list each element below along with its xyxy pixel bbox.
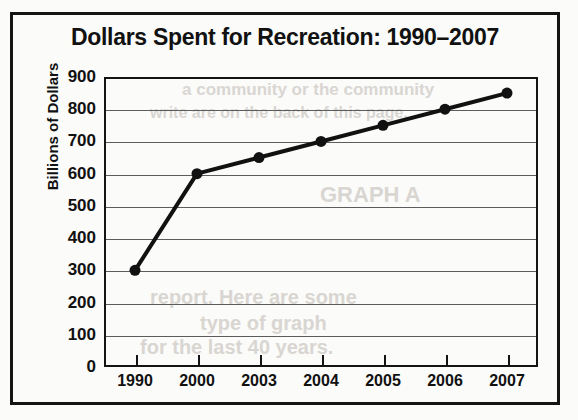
y-axis-tick-label: 600 — [50, 164, 96, 184]
x-axis-tick-label: 1990 — [100, 372, 170, 390]
data-point-marker — [440, 104, 451, 115]
y-axis-tick-label: 100 — [50, 325, 96, 345]
data-point-marker — [192, 168, 203, 179]
x-axis-tick-label: 2004 — [286, 372, 356, 390]
y-axis-tick-label: 0 — [50, 357, 96, 377]
y-axis-tick-label: 800 — [50, 99, 96, 119]
y-axis-tick-labels: 9008007006005004003002001000 — [50, 77, 96, 367]
chart-title: Dollars Spent for Recreation: 1990–2007 — [10, 24, 560, 51]
y-axis-tick-label: 400 — [50, 228, 96, 248]
x-axis-tick-label: 2003 — [224, 372, 294, 390]
x-axis-tick-label: 2006 — [410, 372, 480, 390]
y-axis-tick-label: 300 — [50, 260, 96, 280]
line-series-recreation-spending — [104, 77, 538, 367]
data-point-marker — [378, 120, 389, 131]
data-point-marker — [502, 88, 513, 99]
y-axis-tick-label: 500 — [50, 196, 96, 216]
x-axis-tick-label: 2000 — [162, 372, 232, 390]
x-axis-tick-label: 2007 — [472, 372, 542, 390]
x-axis-tick-label: 2005 — [348, 372, 418, 390]
series-line — [135, 93, 507, 270]
data-point-marker — [316, 136, 327, 147]
data-point-marker — [254, 152, 265, 163]
y-axis-tick-label: 900 — [50, 67, 96, 87]
chart-page: a community or the communitywrite are on… — [0, 0, 578, 420]
y-axis-tick-label: 200 — [50, 293, 96, 313]
data-point-marker — [130, 265, 141, 276]
y-axis-tick-label: 700 — [50, 131, 96, 151]
